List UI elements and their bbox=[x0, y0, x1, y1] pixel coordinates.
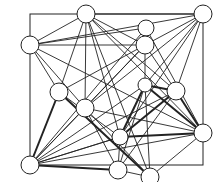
node-G bbox=[76, 99, 94, 117]
node-F bbox=[50, 83, 68, 101]
edge-E-F bbox=[59, 45, 145, 92]
edge-G-K bbox=[85, 108, 203, 133]
node-L bbox=[21, 156, 39, 174]
edge-A-G bbox=[85, 14, 86, 108]
node-K bbox=[194, 124, 212, 142]
edge-I-L bbox=[30, 91, 176, 165]
edge-L-M bbox=[30, 165, 118, 170]
node-A bbox=[77, 5, 95, 23]
edge-A-F bbox=[59, 14, 86, 92]
node-H bbox=[138, 78, 152, 92]
node-I bbox=[167, 82, 185, 100]
edge-F-L bbox=[30, 92, 59, 165]
node-J bbox=[112, 129, 128, 145]
node-B bbox=[138, 20, 154, 36]
node-E bbox=[136, 36, 154, 54]
edge-B-K bbox=[146, 28, 203, 133]
node-D bbox=[21, 36, 39, 54]
node-M bbox=[109, 161, 127, 179]
node-N bbox=[141, 168, 159, 182]
network-graph bbox=[0, 0, 222, 182]
edge-H-N bbox=[145, 85, 150, 177]
edge-K-N bbox=[150, 133, 203, 177]
edge-C-J bbox=[120, 14, 203, 137]
node-C bbox=[194, 5, 212, 23]
edge-I-J bbox=[120, 91, 176, 137]
edge-C-I bbox=[176, 14, 203, 91]
